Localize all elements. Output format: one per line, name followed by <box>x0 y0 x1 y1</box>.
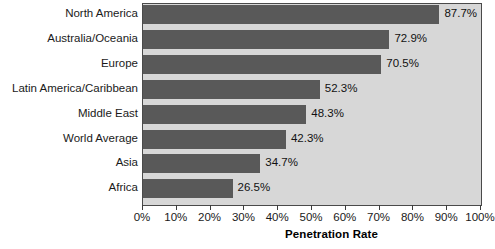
x-tick-label: 80% <box>401 210 424 225</box>
bar-row <box>143 5 481 24</box>
category-label: Europe <box>2 54 142 73</box>
category-label: World Average <box>2 129 142 148</box>
x-tick-label: 40% <box>266 210 289 225</box>
category-label: Middle East <box>2 104 142 123</box>
bar <box>143 154 260 173</box>
x-tick-label: 0% <box>134 210 151 225</box>
bar <box>143 30 389 49</box>
x-tick-label: 100% <box>465 210 494 225</box>
bar-row <box>143 80 481 99</box>
bar <box>143 80 320 99</box>
x-tick-label: 60% <box>333 210 356 225</box>
bar-row <box>143 154 481 173</box>
x-tick-label: 10% <box>164 210 187 225</box>
bar-row <box>143 30 481 49</box>
x-axis-title: Penetration Rate <box>0 228 491 240</box>
bar-row <box>143 130 481 149</box>
x-tick-label: 70% <box>367 210 390 225</box>
bar <box>143 130 286 149</box>
category-axis-labels: North AmericaAustralia/OceaniaEuropeLati… <box>0 4 142 205</box>
bar <box>143 5 439 24</box>
category-label: Asia <box>2 153 142 172</box>
x-tick-label: 50% <box>299 210 322 225</box>
x-tick-label: 90% <box>435 210 458 225</box>
bar <box>143 179 233 198</box>
bar <box>143 55 381 74</box>
bar <box>143 105 306 124</box>
x-tick-label: 20% <box>198 210 221 225</box>
x-axis: 0%10%20%30%40%50%60%70%80%90%100% <box>142 205 482 227</box>
category-label: North America <box>2 4 142 23</box>
plot-area <box>142 3 482 206</box>
category-label: Latin America/Caribbean <box>2 79 142 98</box>
x-axis-title-text: Penetration Rate <box>285 228 378 240</box>
category-label: Africa <box>2 178 142 197</box>
bar-row <box>143 105 481 124</box>
bar-row <box>143 179 481 198</box>
category-label: Australia/Oceania <box>2 29 142 48</box>
x-tick-label: 30% <box>232 210 255 225</box>
bar-row <box>143 55 481 74</box>
